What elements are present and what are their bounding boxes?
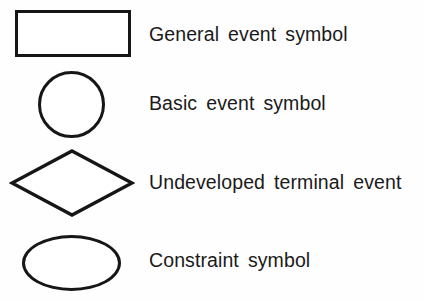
fault-tree-symbol-legend: General event symbol Basic event symbol …	[0, 0, 424, 301]
diamond-shape-icon	[9, 148, 135, 218]
legend-label-general-event: General event symbol	[149, 25, 348, 45]
ellipse-shape-icon	[22, 235, 121, 291]
diamond-shape-svg	[9, 148, 135, 218]
legend-row: General event symbol	[0, 0, 424, 70]
legend-label-undeveloped-terminal-event: Undeveloped terminal event	[149, 173, 401, 193]
circle-shape-icon	[38, 71, 105, 138]
legend-label-constraint-symbol: Constraint symbol	[149, 251, 310, 271]
legend-label-basic-event: Basic event symbol	[149, 94, 326, 114]
rectangle-shape-icon	[15, 10, 131, 57]
